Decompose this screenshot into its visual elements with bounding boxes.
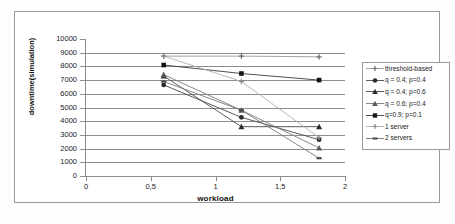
- legend-marker-triangle-icon: [365, 86, 385, 97]
- y-axis-tick-label: 1000: [33, 158, 77, 166]
- series-layer: [86, 39, 345, 176]
- x-axis-tick-label: 1,5: [265, 182, 295, 191]
- data-point-square: [161, 63, 166, 68]
- y-axis-tick-label: 8000: [33, 62, 77, 70]
- data-point-square: [317, 78, 322, 83]
- x-axis-tick-label: 0,5: [136, 182, 166, 191]
- data-point-plus: [373, 66, 378, 71]
- data-point-triangle: [161, 72, 167, 78]
- data-point-triangle: [316, 145, 322, 151]
- legend-item-0: threshold-based: [363, 63, 449, 75]
- legend-label: threshold-based: [385, 65, 432, 73]
- data-point-circle: [161, 82, 166, 87]
- legend-label: q = 0.4; p=0.4: [385, 76, 426, 84]
- legend-item-2: q = 0.4; p=0.6: [363, 86, 449, 98]
- series-line: [164, 81, 319, 158]
- data-point-plus: [239, 54, 244, 59]
- data-point-dash: [373, 137, 378, 139]
- y-axis-tick-label: 9000: [33, 49, 77, 57]
- legend-marker-dash-icon: [365, 133, 385, 144]
- y-axis-tick-label: 7000: [33, 76, 77, 84]
- legend-item-4: q=0.9; p=0.1: [363, 109, 449, 121]
- x-axis-tick-label: 0: [71, 182, 101, 191]
- legend-item-3: q = 0.6; p=0.4: [363, 98, 449, 110]
- legend-label: q=0.9; p=0.1: [385, 111, 422, 119]
- data-point-plus: [317, 54, 322, 59]
- legend-item-1: q = 0.4; p=0.4: [363, 75, 449, 87]
- y-axis-tick-label: 6000: [33, 90, 77, 98]
- chart-legend: threshold-basedq = 0.4; p=0.4q = 0.4; p=…: [362, 62, 450, 150]
- legend-item-5: 1 server: [363, 121, 449, 133]
- legend-marker-circle-icon: [365, 75, 385, 86]
- data-point-circle: [373, 78, 378, 83]
- data-point-square: [373, 113, 377, 117]
- legend-label: 1 server: [385, 123, 409, 131]
- plot-area: [86, 39, 345, 176]
- y-axis-tick-label: 5000: [33, 104, 77, 112]
- y-axis-tick-label: 2000: [33, 145, 77, 153]
- legend-label: 2 servers: [385, 134, 412, 142]
- legend-label: q = 0.6; p=0.4: [385, 100, 426, 108]
- chart-frame: downtime(simulation) 0100020003000400050…: [14, 11, 440, 203]
- data-point-square: [239, 71, 244, 76]
- data-point-dash: [239, 109, 244, 111]
- y-axis-tick-label: 10000: [33, 35, 77, 43]
- legend-marker-triangle-icon: [365, 98, 385, 109]
- legend-label: q = 0.4; p=0.6: [385, 88, 426, 96]
- series-0: [161, 54, 322, 60]
- data-point-dash: [317, 157, 322, 159]
- legend-marker-plus-icon: [365, 121, 385, 132]
- data-point-plus: [373, 124, 378, 129]
- x-axis-title: workload: [86, 194, 345, 203]
- x-axis-tick-label: 2: [330, 182, 360, 191]
- data-point-dash: [161, 80, 166, 82]
- y-axis-tick-label: 4000: [33, 117, 77, 125]
- legend-marker-plus-icon: [365, 63, 385, 74]
- legend-marker-square-icon: [365, 110, 385, 121]
- x-axis-tick-label: 1: [201, 182, 231, 191]
- gridline: [86, 176, 345, 177]
- data-point-circle: [239, 115, 244, 120]
- y-axis-tick-label: 0: [33, 172, 77, 180]
- chart-figure: downtime(simulation) 0100020003000400050…: [0, 0, 455, 224]
- legend-item-6: 2 servers: [363, 133, 449, 145]
- data-point-plus: [161, 54, 166, 59]
- series-6: [161, 80, 322, 159]
- y-axis-tick-label: 3000: [33, 131, 77, 139]
- x-axis-tick: [345, 176, 346, 181]
